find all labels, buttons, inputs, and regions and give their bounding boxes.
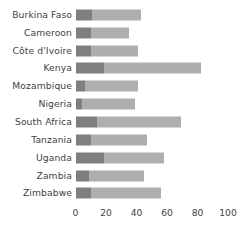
bar-segment-segment-1	[76, 117, 97, 128]
bar-segment-segment-2	[82, 99, 135, 110]
bar-row: South Africa	[0, 113, 238, 131]
bar-segment-segment-2	[85, 81, 138, 92]
x-tick-label: 80	[192, 208, 204, 217]
bar-segment-segment-1	[76, 63, 105, 74]
bar-segment-segment-1	[76, 188, 91, 199]
bar-segment-segment-2	[104, 63, 200, 74]
stacked-bar	[76, 99, 135, 110]
x-tick-label: 0	[73, 208, 79, 217]
stacked-bar	[76, 134, 148, 145]
x-tick-label: 60	[161, 208, 173, 217]
bar-row: Mozambique	[0, 77, 238, 95]
category-label: Mozambique	[12, 82, 72, 91]
stacked-bar	[76, 27, 129, 38]
category-label: Uganda	[36, 153, 72, 162]
x-tick-label: 40	[131, 208, 143, 217]
bar-row: Kenya	[0, 60, 238, 78]
bar-segment-segment-2	[104, 152, 163, 163]
bar-row: Burkina Faso	[0, 6, 238, 24]
category-label: South Africa	[15, 117, 72, 126]
bar-segment-segment-2	[91, 134, 147, 145]
bar-segment-segment-1	[76, 170, 90, 181]
plot-area: Burkina FasoCameroonCôte d'IvoireKenyaMo…	[0, 0, 238, 201]
bar-row: Zimbabwe	[0, 185, 238, 203]
category-label: Nigeria	[38, 100, 72, 109]
stacked-bar	[76, 188, 161, 199]
stacked-bar	[76, 117, 181, 128]
bar-segment-segment-2	[91, 188, 161, 199]
bar-segment-segment-2	[91, 45, 138, 56]
x-tick-label: 100	[219, 208, 237, 217]
category-label: Kenya	[43, 64, 72, 73]
bar-segment-segment-1	[76, 9, 93, 20]
bar-segment-segment-2	[89, 170, 144, 181]
category-label: Zambia	[37, 171, 73, 180]
bar-row: Zambia	[0, 167, 238, 185]
bar-segment-segment-1	[76, 45, 91, 56]
bar-row: Côte d'Ivoire	[0, 42, 238, 60]
stacked-bar	[76, 170, 145, 181]
category-label: Zimbabwe	[23, 189, 72, 198]
bar-chart: Burkina FasoCameroonCôte d'IvoireKenyaMo…	[0, 0, 238, 229]
bar-row: Uganda	[0, 149, 238, 167]
bar-row: Cameroon	[0, 24, 238, 42]
bar-segment-segment-2	[97, 117, 181, 128]
bar-segment-segment-2	[91, 27, 129, 38]
bar-segment-segment-2	[92, 9, 141, 20]
bar-segment-segment-1	[76, 81, 85, 92]
x-axis: 020406080100	[0, 201, 238, 229]
bar-row: Tanzania	[0, 131, 238, 149]
stacked-bar	[76, 81, 139, 92]
stacked-bar	[76, 9, 142, 20]
x-tick-label: 20	[100, 208, 112, 217]
stacked-bar	[76, 63, 201, 74]
bar-row: Nigeria	[0, 95, 238, 113]
category-label: Tanzania	[31, 135, 72, 144]
bar-segment-segment-1	[76, 152, 105, 163]
stacked-bar	[76, 152, 164, 163]
stacked-bar	[76, 45, 139, 56]
bar-segment-segment-1	[76, 27, 91, 38]
category-label: Côte d'Ivoire	[13, 46, 72, 55]
bar-segment-segment-1	[76, 134, 91, 145]
category-label: Burkina Faso	[12, 10, 72, 19]
category-label: Cameroon	[24, 28, 72, 37]
